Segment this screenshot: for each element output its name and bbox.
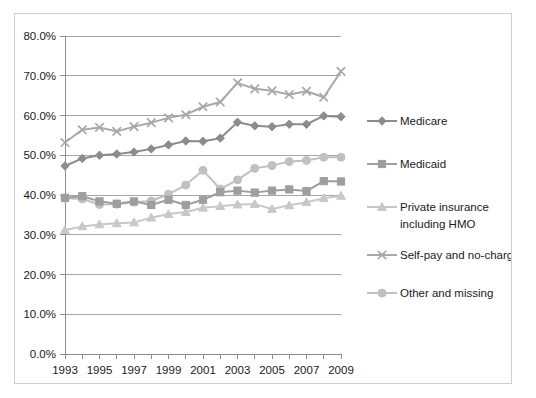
data-point-marker xyxy=(182,181,190,189)
data-point-marker xyxy=(199,196,206,203)
data-point-marker xyxy=(286,186,293,193)
data-point-marker xyxy=(95,151,103,159)
x-tick-label: 2003 xyxy=(225,364,251,376)
legend-entry[interactable]: Medicare xyxy=(367,115,447,127)
legend-entry[interactable]: Medicaid xyxy=(367,158,446,170)
legend-entry[interactable]: including HMO xyxy=(400,218,475,230)
x-tick-label: 1997 xyxy=(121,364,147,376)
data-point-marker xyxy=(378,117,386,125)
data-point-marker xyxy=(268,122,276,130)
data-point-marker xyxy=(61,194,68,201)
x-tick-label: 1995 xyxy=(87,364,113,376)
data-point-marker xyxy=(303,187,310,194)
data-point-marker xyxy=(303,156,311,164)
data-point-marker xyxy=(199,137,207,145)
y-tick-label: 50.0% xyxy=(23,149,56,161)
x-tick-label: 2009 xyxy=(328,364,354,376)
data-point-marker xyxy=(130,198,137,205)
data-point-marker xyxy=(337,112,345,120)
data-point-marker xyxy=(147,145,155,153)
data-point-marker xyxy=(113,150,121,158)
legend-label: Medicaid xyxy=(400,158,446,170)
series-self-pay-and-no-charge xyxy=(61,67,345,147)
x-tick-label: 2001 xyxy=(190,364,216,376)
y-axis-tick-labels: 0.0%10.0%20.0%30.0%40.0%50.0%60.0%70.0%8… xyxy=(23,30,56,360)
data-point-marker xyxy=(234,187,241,194)
x-tick-label: 1999 xyxy=(156,364,182,376)
x-tick-label: 1993 xyxy=(52,364,78,376)
data-point-marker xyxy=(182,201,189,208)
data-point-marker xyxy=(251,164,259,172)
data-point-marker xyxy=(234,176,242,184)
data-point-marker xyxy=(378,160,385,167)
data-point-marker xyxy=(320,112,328,120)
y-tick-label: 0.0% xyxy=(30,348,56,360)
legend-label: Other and missing xyxy=(400,287,493,299)
legend-label: including HMO xyxy=(400,218,475,230)
y-tick-label: 20.0% xyxy=(23,269,56,281)
data-point-marker xyxy=(251,122,259,130)
y-tick-label: 80.0% xyxy=(23,30,56,42)
data-point-marker xyxy=(164,141,172,149)
legend-label: Medicare xyxy=(400,115,447,127)
legend-label: Self-pay and no-charge xyxy=(400,249,511,261)
data-point-marker xyxy=(337,178,344,185)
gridlines xyxy=(65,36,341,354)
x-axis-tick-labels: 199319951997199920012003200520072009 xyxy=(52,364,354,376)
data-point-marker xyxy=(113,200,120,207)
legend-entry[interactable]: Private insurance xyxy=(367,201,489,213)
data-point-marker xyxy=(378,289,386,297)
chart-legend: MedicareMedicaidPrivate insuranceincludi… xyxy=(367,115,511,299)
data-point-marker xyxy=(217,189,224,196)
data-point-marker xyxy=(148,201,155,208)
data-point-marker xyxy=(165,196,172,203)
data-point-marker xyxy=(320,177,327,184)
chart-container: 0.0%10.0%20.0%30.0%40.0%50.0%60.0%70.0%8… xyxy=(14,13,512,384)
data-point-marker xyxy=(285,158,293,166)
data-point-marker xyxy=(79,193,86,200)
legend-label: Private insurance xyxy=(400,201,489,213)
data-point-marker xyxy=(302,120,310,128)
legend-entry[interactable]: Other and missing xyxy=(367,287,493,299)
data-point-marker xyxy=(61,162,69,170)
legend-entry[interactable]: Self-pay and no-charge xyxy=(367,249,511,261)
data-point-marker xyxy=(199,166,207,174)
y-tick-label: 30.0% xyxy=(23,229,56,241)
data-point-marker xyxy=(96,198,103,205)
data-point-marker xyxy=(182,137,190,145)
x-axis-ticks xyxy=(65,354,341,359)
data-point-marker xyxy=(337,153,345,161)
y-tick-label: 70.0% xyxy=(23,70,56,82)
data-point-marker xyxy=(251,189,258,196)
line-chart: 0.0%10.0%20.0%30.0%40.0%50.0%60.0%70.0%8… xyxy=(15,14,511,383)
data-series-group xyxy=(61,67,346,233)
data-point-marker xyxy=(268,187,275,194)
data-point-marker xyxy=(268,162,276,170)
y-tick-label: 60.0% xyxy=(23,110,56,122)
y-tick-label: 40.0% xyxy=(23,189,56,201)
x-tick-label: 2007 xyxy=(294,364,320,376)
data-point-marker xyxy=(320,153,328,161)
x-tick-label: 2005 xyxy=(259,364,285,376)
y-tick-label: 10.0% xyxy=(23,308,56,320)
data-point-marker xyxy=(285,120,293,128)
